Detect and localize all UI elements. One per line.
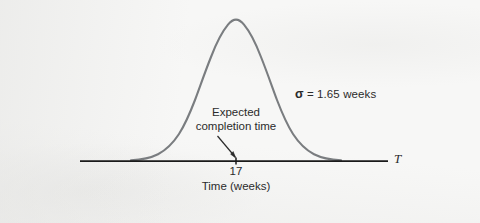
figure-container: σ = 1.65 weeks Expected completion time … [0,0,480,223]
sigma-label: σ = 1.65 weeks [295,87,376,102]
expected-completion-annotation: Expected completion time [196,106,277,133]
annotation-line-1: Expected [196,106,277,120]
x-axis-symbol-label: T [394,151,401,166]
x-axis-caption: Time (weeks) [202,180,271,194]
sigma-symbol: σ [295,87,304,101]
sigma-value-text: = 1.65 weeks [304,88,377,100]
mean-tick-value-label: 17 [230,165,243,179]
annotation-line-2: completion time [196,120,277,134]
annotation-arrow [218,136,236,158]
